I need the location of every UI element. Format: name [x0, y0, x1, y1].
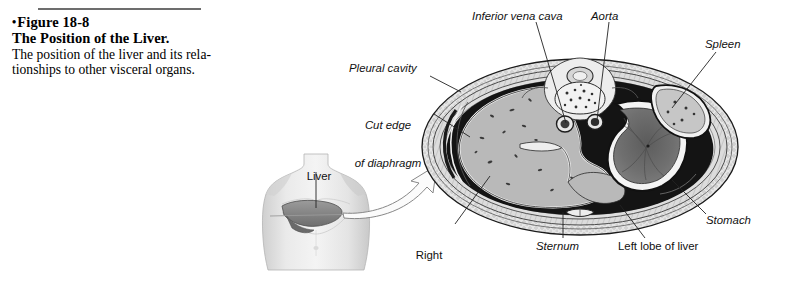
bullet-glyph: •	[12, 15, 16, 29]
figure-panel: •Figure 18-8 The Position of the Liver. …	[0, 0, 787, 281]
label-stomach: Stomach	[706, 214, 751, 227]
label-spleen: Spleen	[705, 38, 740, 51]
label-aorta: Aorta	[591, 10, 618, 23]
label-pleural-cavity: Pleural cavity	[349, 62, 417, 75]
figure-number: •Figure 18-8	[12, 15, 212, 30]
caption-block: •Figure 18-8 The Position of the Liver. …	[12, 8, 212, 78]
torso-liver-label: Liver	[292, 170, 346, 183]
figure-description-line-2: tionships to other visceral organs.	[12, 62, 212, 77]
figure-description-line-1: The position of the liver and its rela-	[12, 47, 212, 62]
caption-rule	[38, 8, 201, 10]
label-left-lobe-of-liver: Left lobe of liver	[618, 240, 698, 253]
abdominal-cross-section	[420, 52, 740, 242]
figure-title: The Position of the Liver.	[12, 30, 212, 46]
figure-number-text: Figure 18-8	[17, 14, 89, 30]
label-cut-edge-line-2: of diaphragm	[344, 157, 432, 170]
figure-description: The position of the liver and its rela- …	[12, 47, 212, 78]
label-inferior-vena-cava: Inferior vena cava	[472, 10, 563, 23]
label-right-lobe-of-liver: Right lobe of liver	[403, 224, 455, 281]
label-cut-edge-of-diaphragm: Cut edge of diaphragm	[344, 94, 432, 195]
label-cut-edge-line-1: Cut edge	[344, 119, 432, 132]
label-sternum: Sternum	[536, 240, 579, 253]
label-right-lobe-line-1: Right	[403, 249, 455, 262]
